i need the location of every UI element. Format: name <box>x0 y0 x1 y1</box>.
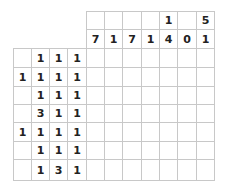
grid-cell[interactable] <box>177 48 197 68</box>
grid-cell[interactable] <box>104 122 123 142</box>
row-clue: 1 <box>13 122 32 142</box>
grid-cell[interactable] <box>86 122 105 142</box>
column-clue <box>122 11 142 30</box>
grid-cell[interactable] <box>177 159 197 181</box>
column-clue: 7 <box>86 29 105 49</box>
grid-cell[interactable] <box>177 86 197 105</box>
grid-cell[interactable] <box>159 86 178 105</box>
grid-cell[interactable] <box>122 159 142 181</box>
row-clue: 1 <box>67 141 87 160</box>
grid-cell[interactable] <box>122 122 142 142</box>
grid-cell[interactable] <box>122 104 142 123</box>
grid-cell[interactable] <box>141 48 160 68</box>
grid-cell[interactable] <box>86 67 105 87</box>
row-clue: 1 <box>31 86 50 105</box>
grid-cell[interactable] <box>86 104 105 123</box>
column-clue: 0 <box>177 29 197 49</box>
column-clue: 7 <box>122 29 142 49</box>
grid-cell[interactable] <box>196 122 215 142</box>
grid-cell[interactable] <box>177 104 197 123</box>
column-clue: 1 <box>141 29 160 49</box>
grid-cell[interactable] <box>159 141 178 160</box>
grid-cell[interactable] <box>177 122 197 142</box>
column-clue: 1 <box>159 11 178 30</box>
grid-cell[interactable] <box>141 67 160 87</box>
grid-cell[interactable] <box>177 67 197 87</box>
row-clue: 1 <box>49 122 68 142</box>
grid-cell[interactable] <box>86 159 105 181</box>
grid-cell[interactable] <box>196 67 215 87</box>
column-clue <box>141 11 160 30</box>
grid-cell[interactable] <box>86 141 105 160</box>
row-clue: 1 <box>13 67 32 87</box>
row-clue: 1 <box>49 67 68 87</box>
grid-cell[interactable] <box>159 67 178 87</box>
row-clue: 1 <box>67 86 87 105</box>
grid-cell[interactable] <box>177 141 197 160</box>
grid-cell[interactable] <box>122 48 142 68</box>
row-clue: 1 <box>49 141 68 160</box>
column-clue <box>86 11 105 30</box>
row-clue: 1 <box>49 48 68 68</box>
column-clue <box>177 11 197 30</box>
grid-cell[interactable] <box>159 104 178 123</box>
grid-cell[interactable] <box>196 159 215 181</box>
grid-cell[interactable] <box>141 104 160 123</box>
grid-cell[interactable] <box>196 86 215 105</box>
grid-cell[interactable] <box>196 48 215 68</box>
grid-cell[interactable] <box>122 86 142 105</box>
grid-cell[interactable] <box>141 86 160 105</box>
grid-cell[interactable] <box>141 159 160 181</box>
grid-cell[interactable] <box>159 48 178 68</box>
grid-cell[interactable] <box>104 159 123 181</box>
row-clue <box>13 104 32 123</box>
grid-cell[interactable] <box>141 141 160 160</box>
column-clue <box>104 11 123 30</box>
column-clue: 4 <box>159 29 178 49</box>
row-clue: 3 <box>49 159 68 181</box>
row-clue <box>13 159 32 181</box>
grid-cell[interactable] <box>104 67 123 87</box>
grid-cell[interactable] <box>104 141 123 160</box>
column-clue: 1 <box>104 29 123 49</box>
row-clue: 1 <box>67 159 87 181</box>
row-clue <box>13 86 32 105</box>
grid-cell[interactable] <box>141 122 160 142</box>
row-clue: 1 <box>31 67 50 87</box>
grid-cell[interactable] <box>104 86 123 105</box>
grid-cell[interactable] <box>104 104 123 123</box>
grid-cell[interactable] <box>122 67 142 87</box>
row-clue: 1 <box>31 122 50 142</box>
grid-cell[interactable] <box>122 141 142 160</box>
row-clue: 1 <box>49 86 68 105</box>
grid-cell[interactable] <box>196 104 215 123</box>
row-clue: 1 <box>49 104 68 123</box>
row-clue: 1 <box>31 159 50 181</box>
grid-cell[interactable] <box>86 48 105 68</box>
row-clue: 1 <box>67 67 87 87</box>
column-clue: 5 <box>196 11 215 30</box>
row-clue <box>13 48 32 68</box>
grid-cell[interactable] <box>159 122 178 142</box>
row-clue <box>13 141 32 160</box>
grid-cell[interactable] <box>86 86 105 105</box>
row-clue: 1 <box>67 48 87 68</box>
grid-cell[interactable] <box>104 48 123 68</box>
row-clue: 1 <box>67 122 87 142</box>
column-clue: 1 <box>196 29 215 49</box>
row-clue: 1 <box>31 141 50 160</box>
grid-cell[interactable] <box>196 141 215 160</box>
grid-cell[interactable] <box>159 159 178 181</box>
row-clue: 1 <box>67 104 87 123</box>
row-clue: 3 <box>31 104 50 123</box>
row-clue: 1 <box>31 48 50 68</box>
